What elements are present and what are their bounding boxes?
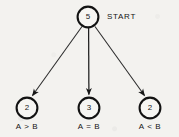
- edge-to-less: [95, 27, 145, 96]
- node-value-greater: 2: [17, 104, 37, 112]
- start-node-value: 5: [78, 13, 98, 21]
- node-caption-equal: A = B: [64, 122, 114, 131]
- start-caption: START: [107, 12, 136, 21]
- node-caption-less: A < B: [125, 122, 175, 131]
- state-transition-diagram: 5 START 2 3 2 A > B A = B A < B: [0, 0, 179, 137]
- edge-to-greater: [33, 27, 83, 96]
- node-caption-greater: A > B: [2, 122, 52, 131]
- node-value-equal: 3: [79, 104, 99, 112]
- node-value-less: 2: [140, 104, 160, 112]
